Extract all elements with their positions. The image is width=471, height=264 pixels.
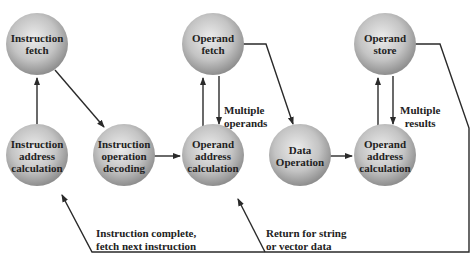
- label-line: Operand: [350, 32, 420, 44]
- label-line: fetch: [2, 44, 72, 56]
- edge-label-multiple-operands: Multiple operands: [224, 104, 267, 129]
- edge-return-string: [238, 199, 265, 252]
- edge-label-multiple-results: Multiple results: [400, 104, 440, 129]
- label-line: Operand: [178, 32, 248, 44]
- label-line: Instruction: [89, 138, 159, 150]
- label-line: Instruction: [2, 32, 72, 44]
- label-line: operands: [224, 117, 267, 130]
- label-line: Multiple: [400, 104, 440, 117]
- label-line: results: [400, 117, 440, 130]
- label-line: calculation: [2, 162, 72, 174]
- edge-label-return-string: Return for string or vector data: [266, 227, 346, 252]
- label-operand-store: Operand store: [350, 32, 420, 56]
- label-data-operation: Data Operation: [265, 144, 335, 168]
- label-line: Operand: [178, 138, 248, 150]
- edge-if-to-iod: [55, 70, 104, 127]
- label-line: Return for string: [266, 227, 346, 240]
- label-line: Multiple: [224, 104, 267, 117]
- label-line: Operation: [265, 156, 335, 168]
- label-line: address: [350, 150, 420, 162]
- label-line: decoding: [89, 162, 159, 174]
- label-instruction-address-calculation: Instruction address calculation: [2, 138, 72, 174]
- edge-label-instruction-complete: Instruction complete, fetch next instruc…: [96, 227, 196, 252]
- label-line: calculation: [178, 162, 248, 174]
- label-instruction-fetch: Instruction fetch: [2, 32, 72, 56]
- label-operand-address-calculation-2: Operand address calculation: [350, 138, 420, 174]
- label-line: fetch: [178, 44, 248, 56]
- label-line: calculation: [350, 162, 420, 174]
- label-line: operation: [89, 150, 159, 162]
- label-line: Instruction: [2, 138, 72, 150]
- label-line: Operand: [350, 138, 420, 150]
- label-operand-fetch: Operand fetch: [178, 32, 248, 56]
- label-instruction-operation-decoding: Instruction operation decoding: [89, 138, 159, 174]
- label-line: or vector data: [266, 240, 346, 253]
- label-line: address: [178, 150, 248, 162]
- label-line: store: [350, 44, 420, 56]
- label-line: fetch next instruction: [96, 240, 196, 253]
- label-line: Data: [265, 144, 335, 156]
- label-line: address: [2, 150, 72, 162]
- label-operand-address-calculation-1: Operand address calculation: [178, 138, 248, 174]
- label-line: Instruction complete,: [96, 227, 196, 240]
